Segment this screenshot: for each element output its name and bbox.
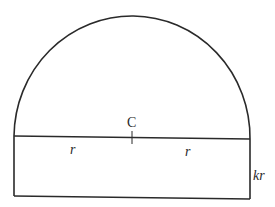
rect-bottom-side (14, 196, 250, 199)
rect-height-label: kr (253, 168, 265, 183)
center-label: C (127, 115, 136, 130)
left-radius-label: r (70, 142, 76, 157)
right-radius-label: r (185, 144, 191, 159)
diagram-canvas: C r r kr (0, 0, 275, 207)
